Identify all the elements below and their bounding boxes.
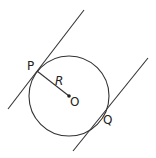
radius-segment bbox=[37, 71, 69, 96]
label-q: Q bbox=[103, 114, 112, 126]
diagram-canvas bbox=[0, 0, 156, 158]
tangent-circle-diagram: P R O Q bbox=[0, 0, 156, 158]
label-o: O bbox=[70, 96, 79, 108]
label-p: P bbox=[27, 60, 34, 72]
tangent-line-q bbox=[73, 58, 148, 151]
label-r: R bbox=[55, 75, 63, 87]
